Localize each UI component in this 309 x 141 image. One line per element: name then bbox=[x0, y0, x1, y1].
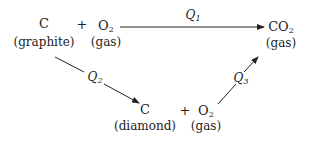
o2-top-state: (gas) bbox=[91, 35, 121, 49]
co2-species: CO2 bbox=[268, 20, 294, 34]
graphite-state: (graphite) bbox=[13, 35, 74, 49]
graphite-species: C bbox=[39, 17, 49, 31]
diamond-species: C bbox=[140, 103, 150, 117]
arrow-q3-segment-b bbox=[244, 57, 258, 72]
o2-bottom-state: (gas) bbox=[191, 119, 221, 133]
hess-cycle-diagram: C (graphite) + O2 (gas) Q1 CO2 (gas) Q2 … bbox=[0, 0, 309, 141]
arrow-q2-segment-b bbox=[104, 84, 139, 103]
q1-label: Q1 bbox=[186, 8, 201, 22]
plus-top: + bbox=[77, 18, 88, 32]
o2-top-species: O2 bbox=[98, 19, 114, 33]
q3-label: Q3 bbox=[234, 71, 249, 85]
arrow-q2-segment-a bbox=[55, 57, 84, 72]
diamond-state: (diamond) bbox=[114, 119, 176, 133]
co2-state: (gas) bbox=[266, 36, 296, 50]
o2-bottom-species: O2 bbox=[198, 104, 214, 118]
arrow-q3-segment-a bbox=[218, 84, 236, 104]
q2-label: Q2 bbox=[88, 70, 103, 84]
plus-bottom: + bbox=[180, 104, 191, 118]
